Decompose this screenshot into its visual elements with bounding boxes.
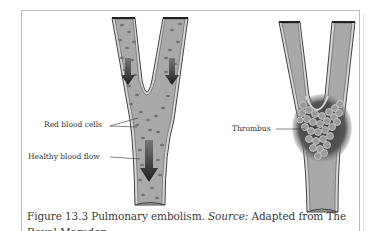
pulmonary-embolism-diagram: [0, 0, 381, 231]
figure-title: Pulmonary embolism.: [91, 210, 205, 222]
label-red-blood-cells: Red blood cells: [44, 120, 102, 129]
source-text: Adapted from The: [251, 210, 346, 222]
figure-number: Figure 13.3: [27, 210, 88, 222]
blocked-vessel: [276, 22, 355, 212]
figure-caption-line2: Royal Marsden...: [27, 226, 117, 231]
label-thrombus: Thrombus: [232, 124, 271, 133]
source-label: Source:: [208, 210, 248, 222]
label-healthy-blood-flow: Healthy blood flow: [28, 152, 100, 161]
figure-caption: Figure 13.3 Pulmonary embolism. Source: …: [27, 210, 346, 222]
healthy-vessel: [110, 18, 188, 205]
